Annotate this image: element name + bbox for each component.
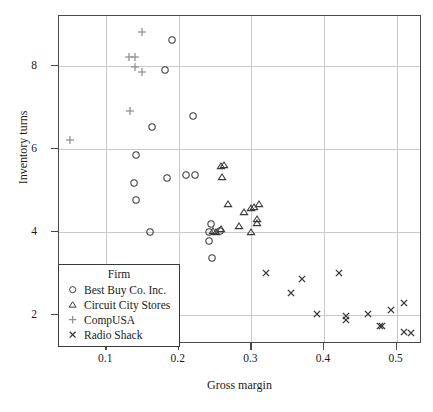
data-point [397,296,411,310]
data-point [295,272,309,286]
data-point [205,251,219,265]
triangle-marker-icon [66,298,79,311]
x-tick-label: 0.1 [98,352,112,364]
y-axis-ticks: 2468 [0,15,51,343]
circle-marker-icon [66,283,79,296]
data-point [129,148,143,162]
x-tick-label: 0.5 [388,352,402,364]
data-point [188,168,202,182]
x-axis-label: Gross margin [58,378,421,393]
data-point [135,65,149,79]
data-point [404,326,418,340]
data-point [135,25,149,39]
x-tick-label: 0.2 [171,352,185,364]
y-tick-label: 2 [31,308,37,320]
y-tick-label: 4 [31,225,37,237]
y-tick-mark [51,314,58,315]
x-tick-label: 0.4 [316,352,330,364]
legend-item-label: Circuit City Stores [84,299,170,311]
gridline-horizontal [59,149,420,150]
data-point [143,225,157,239]
x-tick-mark [396,343,397,350]
x-tick-label: 0.3 [243,352,257,364]
data-point [160,171,174,185]
data-point [310,307,324,321]
data-point [63,133,77,147]
gridline-vertical [397,16,398,342]
x-tick-mark [323,343,324,350]
legend-item-circle[interactable]: Best Buy Co. Inc. [59,282,179,297]
legend-item-label: CompUSA [84,314,135,326]
data-point [384,303,398,317]
data-point [284,286,298,300]
legend-item-label: Best Buy Co. Inc. [84,284,166,296]
data-point [252,197,266,211]
gridline-vertical [324,16,325,342]
data-point [339,313,353,327]
data-point [127,176,141,190]
data-point [165,33,179,47]
data-point [215,170,229,184]
data-point [244,225,258,239]
data-point [129,193,143,207]
legend-item-label: Radio Shack [84,329,142,341]
legend-item-plus[interactable]: CompUSA [59,312,179,327]
y-tick-label: 6 [31,142,37,154]
legend-item-triangle[interactable]: Circuit City Stores [59,297,179,312]
data-point [145,120,159,134]
data-point [214,222,228,236]
gridline-horizontal [59,66,420,67]
data-point [259,266,273,280]
data-point [332,266,346,280]
scatter-plot-figure: Inventory turns 2468 [0,0,433,412]
y-tick-mark [51,231,58,232]
cross-marker-icon [66,328,79,341]
data-point [375,319,389,333]
legend: Firm Best Buy Co. Inc. Circuit City Stor… [58,264,180,347]
plus-marker-icon [66,313,79,326]
data-point [123,104,137,118]
data-point [186,109,200,123]
legend-entries: Best Buy Co. Inc. Circuit City Stores Co… [59,282,179,342]
y-tick-label: 8 [31,59,37,71]
data-point [221,197,235,211]
y-tick-mark [51,148,58,149]
legend-title: Firm [59,268,179,282]
x-tick-mark [250,343,251,350]
y-tick-mark [51,65,58,66]
legend-item-cross[interactable]: Radio Shack [59,327,179,342]
data-point [158,63,172,77]
gridline-vertical [251,16,252,342]
